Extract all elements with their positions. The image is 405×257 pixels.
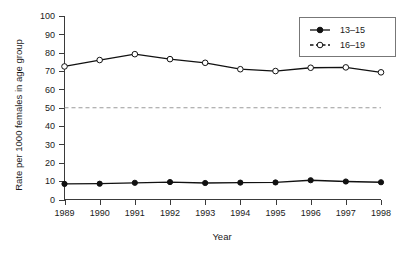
data-point [308, 178, 313, 183]
data-point [273, 68, 279, 74]
data-point [378, 180, 383, 185]
x-tick-label: 1990 [90, 208, 110, 218]
data-point [238, 66, 244, 72]
legend-marker [317, 27, 323, 33]
x-tick-label: 1994 [230, 208, 250, 218]
data-point [167, 56, 173, 62]
x-tick-label: 1992 [160, 208, 180, 218]
data-point [203, 180, 208, 185]
y-tick-label: 0 [50, 195, 55, 205]
y-tick-label: 90 [45, 30, 55, 40]
data-point [202, 60, 208, 66]
data-point [308, 65, 314, 71]
legend: 13–1516–19 [300, 18, 396, 57]
legend-label: 16–19 [340, 40, 365, 50]
data-point [343, 179, 348, 184]
y-tick-label: 30 [45, 140, 55, 150]
data-point [132, 180, 137, 185]
data-point [97, 57, 103, 63]
y-tick-label: 70 [45, 66, 55, 76]
data-point [343, 65, 349, 71]
x-tick-label: 1991 [125, 208, 145, 218]
x-tick-label: 1989 [54, 208, 74, 218]
x-axis-title: Year [212, 231, 231, 242]
legend-marker [317, 42, 323, 48]
legend-label: 13–15 [340, 25, 365, 35]
y-tick-label: 10 [45, 176, 55, 186]
data-point [97, 181, 102, 186]
x-tick-label: 1998 [371, 208, 391, 218]
data-point [62, 64, 68, 70]
y-tick-label: 50 [45, 103, 55, 113]
data-point [62, 181, 67, 186]
chart-canvas: Rate per 1000 females in age group 01020… [0, 0, 405, 257]
x-tick-label: 1995 [265, 208, 285, 218]
x-tick-label: 1997 [336, 208, 356, 218]
x-tick-label: 1996 [301, 208, 321, 218]
x-tick-label: 1993 [195, 208, 215, 218]
data-point [273, 180, 278, 185]
y-tick-label: 40 [45, 121, 55, 131]
data-point [378, 70, 384, 76]
y-tick-label: 60 [45, 85, 55, 95]
line-chart: Rate per 1000 females in age group 01020… [0, 0, 405, 257]
legend-box [300, 18, 396, 57]
y-tick-label: 20 [45, 158, 55, 168]
y-axis-title: Rate per 1000 females in age group [13, 39, 24, 191]
data-point [167, 179, 172, 184]
data-point [132, 51, 138, 57]
y-tick-label: 80 [45, 48, 55, 58]
y-tick-label: 100 [40, 11, 55, 21]
data-point [238, 180, 243, 185]
